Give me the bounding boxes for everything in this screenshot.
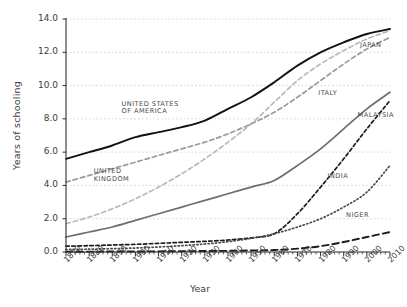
y-tick-label: 6.0 bbox=[24, 146, 58, 156]
series-label: KINGDOM bbox=[94, 175, 129, 183]
x-axis-label: Year bbox=[0, 283, 400, 294]
y-tick-label: 8.0 bbox=[24, 113, 58, 123]
y-axis-label: Years of schooling bbox=[11, 66, 22, 186]
y-tick-label: 12.0 bbox=[24, 46, 58, 56]
y-tick-label: 2.0 bbox=[24, 213, 58, 223]
gridlines bbox=[66, 19, 390, 252]
series-label: NIGER bbox=[346, 211, 369, 219]
series-label: JAPAN bbox=[360, 41, 382, 49]
series-label: OF AMERICA bbox=[122, 107, 168, 115]
series-label: INDIA bbox=[328, 172, 349, 180]
series-lines bbox=[66, 29, 390, 252]
axis-lines bbox=[63, 18, 391, 257]
series-label: ITALY bbox=[318, 89, 337, 97]
y-tick-label: 4.0 bbox=[24, 179, 58, 189]
y-tick-label: 10.0 bbox=[24, 80, 58, 90]
y-tick-label: 0.0 bbox=[24, 246, 58, 256]
series-label: MALAYSIA bbox=[358, 111, 394, 119]
y-tick-label: 14.0 bbox=[24, 13, 58, 23]
